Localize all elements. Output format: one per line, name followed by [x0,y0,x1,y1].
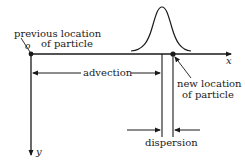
new-particle-dot [170,51,175,56]
previous-particle-dot [29,52,34,57]
y-axis-label: y [35,146,42,157]
dispersion-label: dispersion [145,137,198,148]
origin-label: o [25,41,31,51]
advection-label: advection [83,67,133,78]
diagram-canvas: previous location o of particle advectio… [0,0,245,165]
gaussian-distribution-curve [131,7,191,51]
x-axis-label: x [226,55,232,66]
previous-location-label-line2: of particle [41,38,93,49]
new-location-label-line1: new location [177,78,242,89]
new-location-label-line2: of particle [182,89,234,100]
new-location-pointer [175,57,191,78]
